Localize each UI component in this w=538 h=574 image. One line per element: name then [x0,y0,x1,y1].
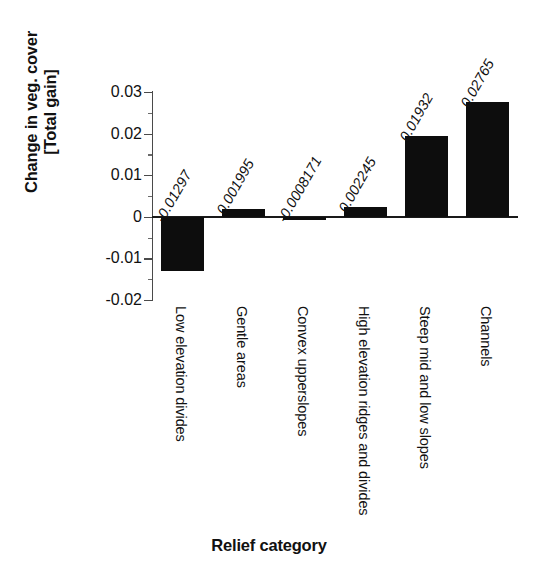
category-label: Steep mid and low slopes [417,306,433,469]
y-axis-tick-labels: 0.030.020.010-0.01-0.02 [52,92,142,300]
y-axis-tick-major [144,217,152,218]
y-axis-tick-major [144,258,152,259]
y-axis-tick-label: -0.01 [106,249,142,267]
bar-chart-figure: Change in veg. cover [Total gain] 0.030.… [0,0,538,574]
category-label: Low elevation divides [173,306,189,442]
y-axis-tick-major [144,300,152,301]
y-axis-title-line-1: Change in veg. cover [22,31,41,193]
y-axis-tick-minor [148,238,152,239]
y-axis-tick-minor [148,279,152,280]
x-axis-title: Relief category [0,536,538,555]
y-axis-tick-minor [148,196,152,197]
y-axis-tick-label: 0.03 [111,83,142,101]
category-label: Channels [478,306,494,366]
category-label: High elevation ridges and divides [356,306,372,516]
category-label: Convex upperslopes [295,306,311,436]
y-axis-tick-minor [148,154,152,155]
bar-value-label: 0.002245 [335,155,379,215]
plot-area: -0.012970.001995-0.00081710.0022450.0193… [152,92,518,300]
y-axis-tick-label: 0.02 [111,125,142,143]
x-axis-category-labels: Low elevation dividesGentle areasConvex … [152,306,518,526]
y-axis-tick-label: -0.02 [106,291,142,309]
bar [161,217,204,271]
bar-value-label: 0.001995 [213,156,257,216]
bar [405,136,448,216]
y-axis-tick-major [144,92,152,93]
bar [466,102,509,217]
y-axis-tick-major [144,175,152,176]
y-axis-tick-label: 0 [133,208,142,226]
y-axis-tick-label: 0.01 [111,166,142,184]
y-axis-tick-major [144,134,152,135]
bar-value-label: -0.0008171 [274,153,325,225]
y-axis-tick-minor [148,113,152,114]
category-label: Gentle areas [234,306,250,388]
